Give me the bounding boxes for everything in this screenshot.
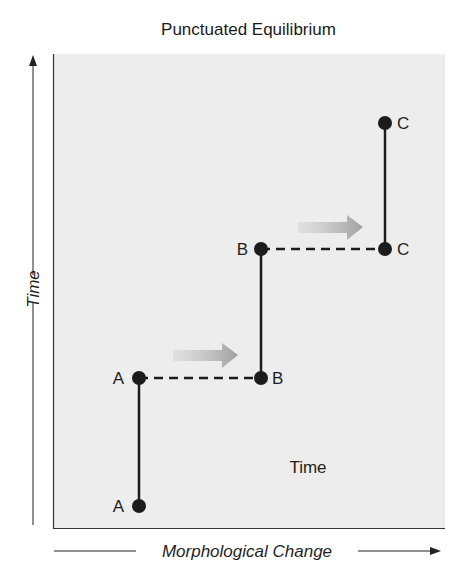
diagram-canvas: Time Morphological Change A A B B C C	[0, 0, 473, 581]
label-c-bottom: C	[397, 240, 409, 259]
arrow-right-icon	[430, 547, 441, 555]
y-axis-label: Time	[24, 270, 43, 308]
label-b-top: B	[237, 240, 248, 259]
inner-time-label: Time	[289, 458, 326, 477]
point-c-bottom	[378, 242, 392, 256]
label-a-top: A	[113, 369, 125, 388]
label-a-bottom: A	[113, 497, 125, 516]
point-c-top	[378, 116, 392, 130]
point-b-top	[254, 242, 268, 256]
point-b-bottom	[254, 371, 268, 385]
point-a-bottom	[132, 499, 146, 513]
arrow-up-icon	[29, 55, 37, 66]
label-b-bottom: B	[272, 369, 283, 388]
label-c-top: C	[397, 114, 409, 133]
point-a-top	[132, 371, 146, 385]
x-axis-label: Morphological Change	[162, 542, 332, 561]
